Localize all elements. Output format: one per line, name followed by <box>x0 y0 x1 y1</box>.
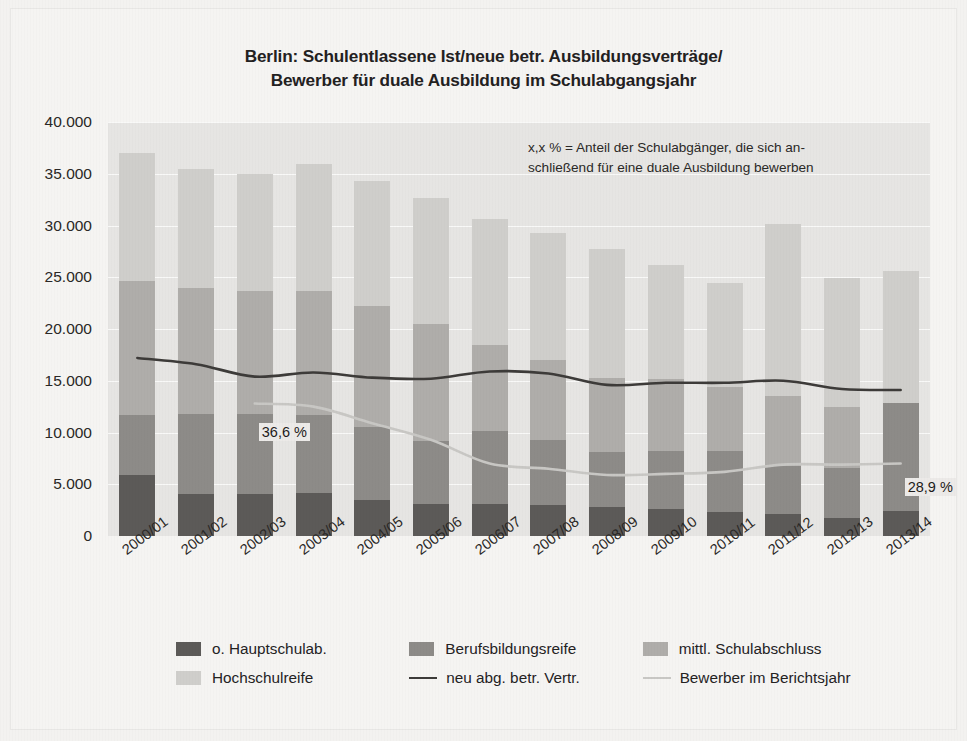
bar-segment <box>237 291 273 414</box>
bar-column <box>530 233 566 536</box>
bar-segment <box>472 345 508 432</box>
bar-segment <box>765 224 801 396</box>
bar-segment <box>413 441 449 504</box>
bar-segment <box>530 360 566 440</box>
bar-segment <box>472 431 508 503</box>
data-label: 28,9 % <box>905 478 956 496</box>
gridline <box>108 226 930 227</box>
chart-note-line-1: x,x % = Anteil der Schulabgänger, die si… <box>528 138 814 158</box>
bar-segment <box>707 387 743 451</box>
bar-column <box>178 169 214 536</box>
bar-segment <box>824 407 860 468</box>
legend-item-label: Berufsbildungsreife <box>445 640 576 658</box>
bar-segment <box>354 306 390 427</box>
bar-segment <box>178 169 214 288</box>
bar-segment <box>589 378 625 453</box>
bar-segment <box>296 164 332 290</box>
bar-column <box>237 174 273 536</box>
gridline <box>108 381 930 382</box>
data-line <box>255 404 901 476</box>
bar-segment <box>707 283 743 387</box>
chart-note-line-2: schließend für eine duale Ausbildung bew… <box>528 158 814 178</box>
bar-segment <box>648 451 684 509</box>
legend-row: Hochschulreifeneu abg. betr. Vertr.Bewer… <box>176 669 876 687</box>
y-axis-tick-label: 25.000 <box>0 268 92 286</box>
bar-column <box>354 181 390 536</box>
bar-segment <box>824 468 860 519</box>
bar-segment <box>883 271 919 402</box>
legend-line-icon <box>409 677 437 679</box>
y-axis-tick-label: 0 <box>0 527 92 545</box>
y-axis-tick-label: 10.000 <box>0 424 92 442</box>
bar-segment <box>178 414 214 494</box>
legend-item[interactable]: Hochschulreife <box>176 669 409 687</box>
gridline <box>108 484 930 485</box>
legend-row: o. Hauptschulab.Berufsbildungsreifemittl… <box>176 640 876 658</box>
bar-segment <box>530 440 566 505</box>
bar-column <box>824 278 860 536</box>
legend-swatch-icon <box>176 671 201 685</box>
bar-segment <box>648 379 684 451</box>
bar-segment <box>237 174 273 291</box>
bar-segment <box>119 153 155 281</box>
bar-segment <box>413 198 449 324</box>
bar-segment <box>472 219 508 344</box>
bar-segment <box>707 451 743 512</box>
bar-segment <box>119 281 155 415</box>
legend-swatch-icon <box>409 642 434 656</box>
legend-item[interactable]: neu abg. betr. Vertr. <box>409 669 642 687</box>
chart-legend: o. Hauptschulab.Berufsbildungsreifemittl… <box>176 640 876 698</box>
legend-item[interactable]: Bewerber im Berichtsjahr <box>643 669 876 687</box>
bar-segment <box>354 181 390 306</box>
y-axis-tick-label: 5.000 <box>0 475 92 493</box>
legend-item[interactable]: mittl. Schulabschluss <box>643 640 876 658</box>
bar-column <box>472 219 508 536</box>
legend-swatch-icon <box>643 642 668 656</box>
legend-item[interactable]: Berufsbildungsreife <box>409 640 642 658</box>
y-axis-tick-label: 20.000 <box>0 320 92 338</box>
y-axis-tick-label: 40.000 <box>0 113 92 131</box>
bar-segment <box>354 427 390 499</box>
bar-column <box>413 198 449 536</box>
chart-page: Berlin: Schulentlassene Ist/neue betr. A… <box>0 0 967 741</box>
legend-item-label: mittl. Schulabschluss <box>679 640 822 658</box>
bar-segment <box>765 466 801 515</box>
gridline <box>108 329 930 330</box>
bar-column <box>765 224 801 536</box>
bar-segment <box>530 233 566 360</box>
bar-segment <box>589 249 625 377</box>
bar-column <box>296 164 332 536</box>
chart-note: x,x % = Anteil der Schulabgänger, die si… <box>528 138 814 179</box>
bar-segment <box>119 415 155 475</box>
legend-line-icon <box>643 677 671 679</box>
legend-swatch-icon <box>176 642 201 656</box>
legend-item[interactable]: o. Hauptschulab. <box>176 640 409 658</box>
gridline <box>108 433 930 434</box>
bar-column <box>589 249 625 536</box>
bar-segment <box>178 288 214 414</box>
bar-segment <box>296 291 332 415</box>
plot-area: 36,6 %28,9 % x,x % = Anteil der Schulabg… <box>108 122 930 536</box>
data-label: 36,6 % <box>259 423 310 441</box>
gridline <box>108 122 930 123</box>
bar-segment <box>648 265 684 379</box>
gridline <box>108 277 930 278</box>
bar-segment <box>413 324 449 441</box>
legend-item-label: Bewerber im Berichtsjahr <box>680 669 851 687</box>
y-axis-tick-label: 35.000 <box>0 165 92 183</box>
bar-segment <box>589 452 625 507</box>
y-axis-tick-label: 15.000 <box>0 372 92 390</box>
legend-item-label: o. Hauptschulab. <box>212 640 327 658</box>
y-axis-tick-label: 30.000 <box>0 217 92 235</box>
bar-segment <box>765 396 801 465</box>
bar-column <box>707 283 743 536</box>
bar-segment <box>824 278 860 406</box>
bar-column <box>648 265 684 536</box>
legend-item-label: neu abg. betr. Vertr. <box>446 669 580 687</box>
legend-item-label: Hochschulreife <box>212 669 313 687</box>
bar-column <box>119 153 155 536</box>
